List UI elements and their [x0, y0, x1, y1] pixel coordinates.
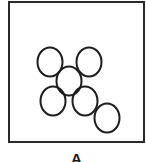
ellipse-bottom-left — [41, 87, 66, 116]
figure-frame — [9, 2, 144, 142]
figure-label: A — [71, 151, 82, 162]
ellipse-top-right — [77, 48, 102, 77]
ellipse-cluster — [38, 48, 120, 133]
diagram-figure: A — [0, 0, 146, 162]
ellipse-bottom-middle — [73, 87, 98, 116]
ellipse-bottom-right — [95, 104, 120, 133]
figure-canvas — [0, 0, 146, 162]
ellipse-center — [57, 67, 82, 96]
